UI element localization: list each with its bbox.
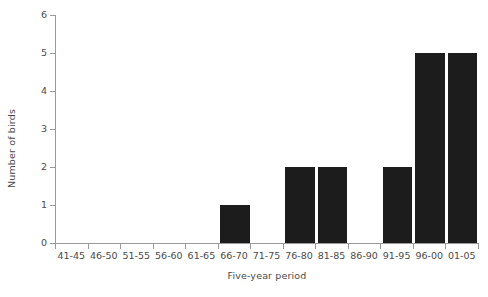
bars-layer	[56, 15, 479, 243]
x-tick-mark	[185, 244, 186, 249]
x-tick-mark	[315, 244, 316, 249]
x-axis-spine	[55, 243, 479, 244]
x-tick-label: 86-90	[348, 251, 381, 261]
x-tick-mark	[218, 244, 219, 249]
x-tick-mark	[413, 244, 414, 249]
bar	[415, 53, 445, 243]
bar-chart: Number of birds 0123456 41-4546-5051-555…	[0, 0, 488, 297]
x-tick-label: 61-65	[185, 251, 218, 261]
y-tick-label: 0	[7, 238, 47, 248]
x-tick-mark	[283, 244, 284, 249]
x-tick-mark	[153, 244, 154, 249]
x-tick-label: 51-55	[120, 251, 153, 261]
y-tick-mark	[50, 15, 55, 16]
x-axis-title: Five-year period	[55, 270, 479, 281]
x-tick-label: 56-60	[153, 251, 186, 261]
bar	[318, 167, 348, 243]
x-tick-label: 66-70	[218, 251, 251, 261]
y-tick-mark	[50, 91, 55, 92]
bar	[285, 167, 315, 243]
x-tick-mark	[120, 244, 121, 249]
y-tick-mark	[50, 53, 55, 54]
bar	[448, 53, 478, 243]
y-tick-mark	[50, 167, 55, 168]
x-tick-label: 91-95	[380, 251, 413, 261]
x-tick-mark	[250, 244, 251, 249]
y-tick-mark	[50, 129, 55, 130]
x-tick-mark	[55, 244, 56, 249]
x-tick-label: 76-80	[283, 251, 316, 261]
y-tick-label: 5	[7, 48, 47, 58]
x-tick-mark	[380, 244, 381, 249]
x-tick-mark	[88, 244, 89, 249]
x-tick-mark	[478, 244, 479, 249]
y-tick-label: 1	[7, 200, 47, 210]
x-tick-mark	[348, 244, 349, 249]
x-tick-label: 81-85	[315, 251, 348, 261]
x-tick-label: 71-75	[250, 251, 283, 261]
y-tick-label: 4	[7, 86, 47, 96]
y-tick-mark	[50, 205, 55, 206]
bar	[383, 167, 413, 243]
x-tick-label: 01-05	[445, 251, 478, 261]
y-tick-label: 6	[7, 10, 47, 20]
y-tick-label: 2	[7, 162, 47, 172]
x-tick-label: 46-50	[88, 251, 121, 261]
y-axis-title: Number of birds	[0, 0, 22, 297]
bar	[220, 205, 250, 243]
x-tick-label: 96-00	[413, 251, 446, 261]
x-tick-label: 41-45	[55, 251, 88, 261]
y-tick-label: 3	[7, 124, 47, 134]
x-tick-mark	[445, 244, 446, 249]
